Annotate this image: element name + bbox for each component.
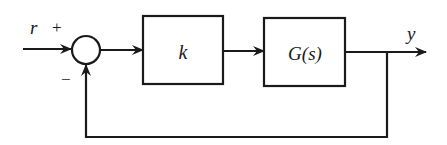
controller-label: k [179, 41, 189, 63]
output-label-y: y [405, 23, 416, 44]
minus-sign: − [61, 70, 71, 89]
feedback-path [86, 52, 387, 137]
block-diagram: r + − k G(s) y [0, 0, 447, 145]
plus-sign: + [52, 18, 62, 37]
plant-label: G(s) [288, 43, 322, 65]
summing-junction [72, 36, 100, 64]
input-label-r: r [30, 17, 38, 38]
